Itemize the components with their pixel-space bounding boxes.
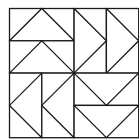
rect-bl-left <box>10 73 42 138</box>
rect-bl-right <box>42 73 74 138</box>
rect-tl-bottom <box>10 41 75 73</box>
rect-tl-top <box>10 9 75 41</box>
quilt-block-diagram <box>0 0 139 140</box>
rect-br-bottom <box>74 105 139 137</box>
rect-tr-left <box>74 9 106 74</box>
rect-br-top <box>74 73 139 105</box>
rect-tr-right <box>106 9 138 74</box>
